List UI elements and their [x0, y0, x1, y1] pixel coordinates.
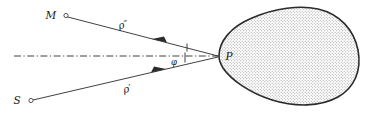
point-marker-M-icon	[64, 13, 68, 17]
reflected-ray-arrowhead-icon	[152, 37, 167, 43]
figure-canvas: M S P ρ″ ρ′ φ	[0, 0, 380, 115]
optics-reflection-figure: M S P ρ″ ρ′ φ	[0, 0, 380, 115]
incident-ray-arrowhead-icon	[151, 67, 166, 73]
point-label-M: M	[45, 9, 57, 21]
ray-label-rho-double-prime: ρ″	[116, 18, 129, 31]
convex-body-shape	[219, 7, 359, 105]
ray-label-rho-prime: ρ′	[121, 82, 133, 95]
point-label-P: P	[224, 50, 233, 62]
point-marker-S-icon	[29, 98, 33, 102]
point-label-S: S	[13, 94, 20, 106]
reflected-ray-line	[64, 16, 218, 56]
angle-label-phi: φ	[171, 57, 177, 67]
